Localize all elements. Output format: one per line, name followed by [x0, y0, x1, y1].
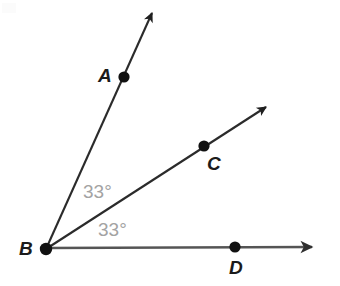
point-label-b: B	[19, 239, 33, 258]
point-label-c: C	[207, 154, 221, 173]
point-label-a: A	[98, 66, 112, 85]
angle-measure-abc: 33°	[83, 182, 112, 201]
geometry-figure: A B C D 33° 33°	[0, 0, 340, 286]
angle-measure-cbd: 33°	[98, 220, 127, 239]
point-label-d: D	[229, 258, 243, 277]
point-A	[118, 71, 129, 82]
ray-BD	[46, 247, 312, 248]
point-D	[229, 241, 240, 252]
angle-diagram	[0, 0, 340, 286]
point-B	[40, 243, 52, 255]
point-C	[198, 140, 209, 151]
